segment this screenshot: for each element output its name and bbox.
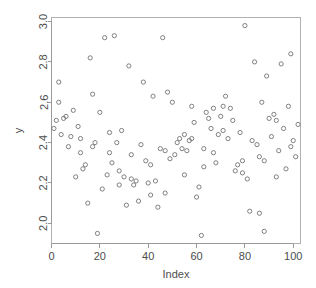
data-point: [117, 183, 121, 187]
data-point: [122, 175, 126, 179]
data-point: [91, 145, 95, 149]
data-points: [52, 23, 300, 237]
data-point: [149, 193, 153, 197]
data-point: [100, 187, 104, 191]
data-point: [112, 34, 116, 38]
data-point: [173, 153, 177, 157]
data-point: [134, 179, 138, 183]
data-point: [93, 141, 97, 145]
data-point: [91, 92, 95, 96]
data-point: [107, 151, 111, 155]
data-point: [257, 155, 261, 159]
data-point: [202, 147, 206, 151]
data-point: [238, 130, 242, 134]
data-point: [262, 159, 266, 163]
data-point: [83, 163, 87, 167]
data-point: [88, 56, 92, 60]
data-point: [252, 60, 256, 64]
x-tick-label: 0: [48, 250, 54, 262]
y-tick-label: 2.8: [38, 54, 50, 69]
data-point: [141, 80, 145, 84]
y-tick-label: 3.0: [38, 14, 50, 29]
x-tick-label: 80: [239, 250, 251, 262]
data-point: [192, 120, 196, 124]
data-point: [284, 167, 288, 171]
x-tick-label: 60: [190, 250, 202, 262]
data-point: [294, 155, 298, 159]
data-point: [163, 149, 167, 153]
data-point: [209, 126, 213, 130]
data-point: [78, 151, 82, 155]
data-point: [272, 112, 276, 116]
data-point: [86, 201, 90, 205]
data-point: [214, 161, 218, 165]
y-tick-label: 2.6: [38, 95, 50, 110]
data-point: [139, 143, 143, 147]
data-point: [81, 167, 85, 171]
data-point: [144, 159, 148, 163]
data-point: [240, 159, 244, 163]
data-point: [57, 80, 61, 84]
x-tick-label: 20: [94, 250, 106, 262]
data-point: [267, 116, 271, 120]
data-point: [129, 153, 133, 157]
data-point: [279, 62, 283, 66]
y-tick-label: 2.2: [38, 175, 50, 190]
data-point: [194, 195, 198, 199]
data-point: [103, 36, 107, 40]
y-tick-label: 2.4: [38, 135, 50, 150]
data-point: [211, 151, 215, 155]
data-point: [98, 110, 102, 114]
data-point: [163, 191, 167, 195]
data-point: [233, 169, 237, 173]
data-point: [245, 177, 249, 181]
data-point: [95, 231, 99, 235]
data-point: [274, 175, 278, 179]
data-point: [165, 90, 169, 94]
data-point: [175, 141, 179, 145]
data-point: [243, 23, 247, 27]
data-point: [156, 205, 160, 209]
data-point: [170, 100, 174, 104]
data-point: [76, 124, 80, 128]
data-point: [236, 163, 240, 167]
data-point: [178, 136, 182, 140]
data-point: [190, 104, 194, 108]
data-point: [231, 118, 235, 122]
y-tick-label: 2.0: [38, 216, 50, 231]
data-point: [221, 128, 225, 132]
y-axis-title: y: [12, 127, 24, 133]
scatter-plot-figure: 020406080100 2.02.22.42.62.83.0 Indexy: [0, 0, 316, 288]
data-point: [202, 165, 206, 169]
data-point: [291, 138, 295, 142]
data-point: [250, 138, 254, 142]
data-point: [286, 104, 290, 108]
data-point: [289, 52, 293, 56]
data-point: [117, 169, 121, 173]
data-point: [153, 179, 157, 183]
data-point: [228, 106, 232, 110]
data-point: [262, 229, 266, 233]
data-point: [199, 233, 203, 237]
data-point: [129, 177, 133, 181]
data-point: [221, 104, 225, 108]
data-point: [54, 118, 58, 122]
data-point: [211, 106, 215, 110]
data-point: [248, 209, 252, 213]
data-point: [182, 132, 186, 136]
data-point: [182, 173, 186, 177]
data-point: [105, 173, 109, 177]
data-point: [216, 132, 220, 136]
data-point: [277, 149, 281, 153]
data-point: [66, 145, 70, 149]
data-point: [219, 114, 223, 118]
data-point: [132, 183, 136, 187]
chart-canvas: 020406080100 2.02.22.42.62.83.0 Indexy: [0, 0, 316, 288]
data-point: [136, 199, 140, 203]
x-tick-label: 100: [284, 250, 302, 262]
data-point: [207, 116, 211, 120]
data-point: [158, 147, 162, 151]
data-point: [107, 130, 111, 134]
data-point: [255, 143, 259, 147]
data-point: [274, 118, 278, 122]
